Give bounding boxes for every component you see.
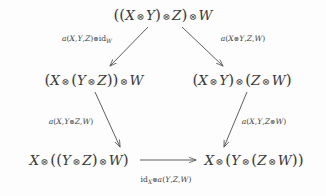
arrow-top-to-mid-right [182, 27, 223, 66]
arrow-top-to-mid-left [110, 27, 148, 66]
arrow-label-top-to-mid-right: a(X⊗Y,Z,W) [221, 35, 266, 43]
node-top: ((X⊗Y)⊗Z)⊗W [113, 8, 212, 23]
arrow-label-top-to-mid-left: a(X,Y,Z)⊗idW [62, 35, 112, 43]
arrow-mid-left-to-bottom-left [95, 92, 120, 147]
node-bottom-left: X⊗((Y⊗Z)⊗W) [29, 153, 128, 168]
arrow-label-bottom-left-to-bottom-right: idX⊗a(Y,Z,W) [141, 176, 192, 184]
node-mid-right: (X⊗Y)⊗(Z⊗W) [192, 73, 291, 88]
arrow-label-mid-right-to-bottom-right: a(X,Y,Z⊗W) [242, 118, 287, 126]
commutative-diagram-canvas: ((X⊗Y)⊗Z)⊗W (X⊗(Y⊗Z))⊗W (X⊗Y)⊗(Z⊗W) X⊗((… [0, 0, 326, 196]
arrow-label-mid-left-to-bottom-left: a(X,Y⊗Z,W) [49, 118, 94, 126]
node-bottom-right: X⊗(Y⊗(Z⊗W)) [204, 153, 303, 168]
node-mid-left: (X⊗(Y⊗Z))⊗W [44, 73, 143, 88]
